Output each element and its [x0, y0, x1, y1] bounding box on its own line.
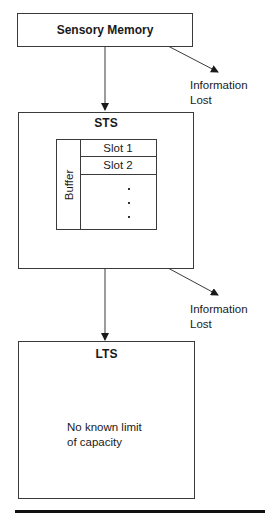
slot-1: Slot 1 — [80, 140, 156, 157]
buffer-label: Buffer — [63, 169, 75, 199]
ellipsis-dot — [128, 216, 130, 218]
lts-box: LTS No known limit of capacity — [18, 341, 195, 499]
buffer: Buffer Slot 1 Slot 2 — [56, 139, 157, 230]
lts-label: LTS — [19, 347, 194, 361]
sensory-memory-label: Sensory Memory — [18, 23, 192, 37]
bottom-rule — [15, 510, 265, 513]
slot-2: Slot 2 — [80, 157, 156, 175]
information-lost-label-1: Information Lost — [190, 78, 248, 108]
sts-box: STS Buffer Slot 1 Slot 2 — [18, 112, 194, 269]
sts-label: STS — [19, 116, 193, 130]
sensory-memory-box: Sensory Memory — [17, 13, 193, 47]
buffer-label-column: Buffer — [57, 140, 81, 229]
ellipsis-dot — [128, 188, 130, 190]
ellipsis-dot — [128, 202, 130, 204]
arrow-sensory-info-lost — [168, 46, 218, 72]
information-lost-label-2: Information Lost — [190, 302, 248, 332]
lts-capacity-note: No known limit of capacity — [67, 420, 142, 450]
arrow-sts-info-lost — [168, 268, 218, 295]
